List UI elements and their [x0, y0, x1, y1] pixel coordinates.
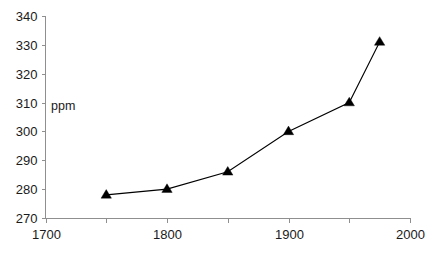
y-axis-ticks — [42, 17, 46, 219]
y-tick-label-310: 310 — [16, 96, 38, 111]
y-tick-label-320: 320 — [16, 67, 38, 82]
x-axis: 1700180019002000 — [32, 218, 425, 242]
y-tick-label-330: 330 — [16, 38, 38, 53]
y-tick-label-270: 270 — [16, 211, 38, 226]
data-point-1950 — [344, 97, 354, 106]
data-point-1900 — [283, 126, 293, 135]
data-point-1850 — [223, 166, 233, 175]
y-tick-label-300: 300 — [16, 124, 38, 139]
series-markers-ppm — [101, 37, 385, 199]
y-axis-label: ppm — [51, 99, 75, 113]
chart-container: 270280290300310320330340 170018001900200… — [0, 0, 439, 256]
x-tick-label-1800: 1800 — [153, 227, 182, 242]
x-tick-label-1900: 1900 — [275, 227, 304, 242]
series-line-ppm — [106, 42, 379, 195]
y-tick-label-340: 340 — [16, 9, 38, 24]
x-axis-tick-labels: 1700180019002000 — [32, 227, 425, 242]
x-tick-label-1700: 1700 — [32, 227, 61, 242]
data-point-1750 — [101, 190, 111, 199]
y-tick-label-290: 290 — [16, 153, 38, 168]
data-point-1975 — [374, 37, 384, 46]
y-axis: 270280290300310320330340 — [16, 9, 46, 226]
series-group — [101, 37, 385, 199]
y-tick-label-280: 280 — [16, 182, 38, 197]
x-tick-label-2000: 2000 — [396, 227, 425, 242]
line-chart: 270280290300310320330340 170018001900200… — [0, 0, 439, 256]
y-axis-tick-labels: 270280290300310320330340 — [16, 9, 38, 226]
